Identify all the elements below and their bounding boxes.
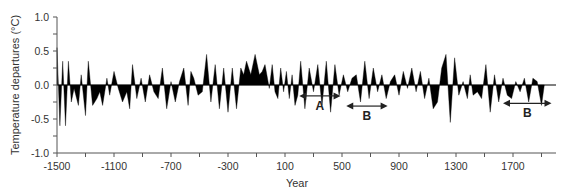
x-axis: -1500-1100-700-30010050090013001700 [44, 153, 556, 172]
x-tick-label: 500 [333, 160, 351, 172]
x-tick-label: 1300 [444, 160, 468, 172]
x-tick-label: 1700 [501, 160, 525, 172]
annotation-label: B [363, 109, 372, 123]
annotations: ABB [299, 92, 551, 123]
x-tick-label: 100 [276, 160, 294, 172]
x-tick-label: -1500 [44, 160, 71, 172]
y-tick-label: -1.0 [31, 147, 49, 159]
annotation-label: A [316, 99, 325, 113]
x-tick-label: -1100 [101, 160, 127, 172]
data-area [57, 48, 544, 126]
y-tick-label: 0.0 [34, 79, 49, 91]
x-tick-label: -300 [217, 160, 238, 172]
y-axis-title: Temperature departures (°C) [9, 15, 21, 155]
temperature-series [57, 48, 544, 126]
x-tick-label: -700 [160, 160, 181, 172]
y-axis: 1.00.50.0-0.5-1.0 [31, 11, 57, 159]
y-tick-label: 0.5 [34, 45, 49, 57]
annotation-b: B [503, 100, 551, 121]
y-tick-label: 1.0 [34, 11, 49, 23]
temperature-departure-chart: 1.00.50.0-0.5-1.0 -1500-1100-700-3001005… [0, 0, 566, 195]
x-axis-title: Year [286, 177, 309, 189]
annotation-label: B [523, 106, 532, 120]
y-tick-label: -0.5 [31, 113, 49, 125]
x-tick-label: 900 [390, 160, 408, 172]
annotation-b: B [346, 103, 387, 124]
